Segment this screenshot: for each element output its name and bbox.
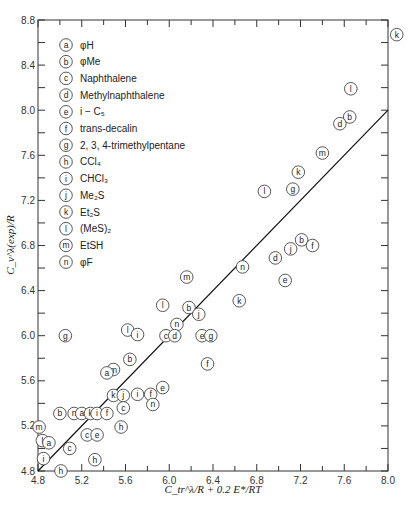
svg-text:d: d — [273, 253, 278, 263]
data-point-g: g — [205, 329, 218, 342]
x-tick-label: 7.6 — [337, 475, 351, 486]
svg-text:e: e — [95, 430, 100, 440]
svg-text:a: a — [79, 408, 84, 418]
x-tick-label: 4.8 — [31, 475, 45, 486]
data-point-d: d — [334, 117, 347, 130]
data-point-i: i — [131, 388, 144, 401]
svg-text:j: j — [289, 244, 292, 254]
legend-item-k: kEt₂S — [60, 206, 101, 219]
svg-text:i: i — [137, 330, 139, 340]
legend-label: Me₂S — [80, 190, 105, 201]
data-point-d: d — [168, 329, 181, 342]
legend-item-h: hCCl₄ — [60, 156, 101, 169]
data-point-m: m — [316, 147, 329, 160]
svg-text:l: l — [127, 325, 129, 335]
legend-label: (MeS)₂ — [80, 223, 111, 234]
data-point-g: g — [59, 329, 72, 342]
legend-label: i − C₅ — [80, 106, 105, 117]
x-tick-label: 8.0 — [381, 475, 395, 486]
legend-label: φF — [80, 257, 93, 268]
y-tick-label: 5.6 — [21, 375, 35, 386]
svg-text:h: h — [64, 157, 69, 167]
svg-text:b: b — [299, 235, 304, 245]
legend-label: Methylnaphthalene — [80, 90, 165, 101]
x-tick-label: 5.2 — [75, 475, 89, 486]
data-point-i: i — [37, 452, 50, 465]
data-point-e: e — [156, 381, 169, 394]
data-point-h: h — [89, 453, 102, 466]
svg-text:l: l — [65, 224, 67, 234]
data-point-c: c — [63, 442, 76, 455]
data-point-d: d — [269, 252, 282, 265]
legend-item-a: aφH — [60, 39, 94, 52]
data-point-n: n — [236, 261, 249, 274]
svg-text:g: g — [63, 331, 68, 341]
svg-text:l: l — [162, 300, 164, 310]
svg-text:b: b — [187, 303, 192, 313]
legend-label: φMe — [80, 56, 101, 67]
data-point-k: k — [233, 294, 246, 307]
svg-text:a: a — [105, 368, 110, 378]
svg-text:d: d — [172, 331, 177, 341]
data-point-f: f — [201, 358, 214, 371]
legend-item-j: jMe₂S — [60, 189, 105, 202]
data-point-b: b — [54, 407, 67, 420]
data-point-f: f — [306, 239, 319, 252]
data-point-n: n — [147, 398, 160, 411]
data-point-g: g — [287, 183, 300, 196]
svg-text:l: l — [350, 84, 352, 94]
y-tick-label: 4.8 — [21, 466, 35, 477]
svg-text:g: g — [208, 331, 213, 341]
y-tick-label: 8.0 — [21, 105, 35, 116]
legend-item-c: cNaphthalene — [60, 72, 137, 85]
svg-text:m: m — [36, 422, 43, 432]
data-point-j: j — [284, 243, 297, 256]
svg-text:n: n — [175, 319, 180, 329]
y-tick-label: 6.4 — [21, 285, 35, 296]
legend-item-m: mEtSH — [60, 239, 104, 252]
svg-text:j: j — [121, 390, 124, 400]
y-tick-label: 7.2 — [21, 195, 35, 206]
data-point-c: c — [117, 402, 130, 415]
data-point-l: l — [156, 299, 169, 312]
data-point-a: a — [43, 437, 56, 450]
legend-label: CHCl₃ — [80, 173, 108, 184]
x-tick-label: 5.6 — [119, 475, 133, 486]
legend-item-i: iCHCl₃ — [60, 172, 108, 185]
svg-text:h: h — [59, 466, 64, 476]
svg-text:g: g — [290, 184, 295, 194]
x-tick-label: 7.2 — [294, 475, 308, 486]
data-point-n: n — [171, 318, 184, 331]
legend-label: trans-decalin — [80, 123, 137, 134]
svg-text:n: n — [150, 399, 155, 409]
y-tick-label: 7.6 — [21, 150, 35, 161]
data-point-b: b — [124, 353, 137, 366]
svg-text:h: h — [119, 422, 124, 432]
svg-text:n: n — [240, 262, 245, 272]
data-point-j: j — [117, 389, 130, 402]
svg-text:g: g — [64, 140, 69, 150]
legend-item-l: l(MeS)₂ — [60, 222, 112, 235]
data-point-h: h — [55, 465, 68, 478]
legend: aφHbφMecNaphthalenedMethylnaphthaleneei … — [60, 39, 186, 269]
y-tick-label: 6.0 — [21, 330, 35, 341]
data-point-h: h — [115, 421, 128, 434]
data-point-j: j — [192, 308, 205, 321]
svg-text:j: j — [64, 190, 67, 200]
svg-text:n: n — [64, 257, 69, 267]
data-point-a: a — [101, 367, 114, 380]
y-tick-label: 8.8 — [21, 15, 35, 26]
svg-text:i: i — [43, 454, 45, 464]
svg-text:b: b — [347, 112, 352, 122]
y-axis-title: C_v^λ(exp)/R — [4, 215, 17, 275]
data-point-m: m — [33, 421, 46, 434]
svg-text:d: d — [64, 90, 69, 100]
legend-item-b: bφMe — [60, 55, 101, 68]
svg-text:d: d — [338, 119, 343, 129]
y-tick-label: 8.4 — [21, 60, 35, 71]
svg-text:e: e — [283, 275, 288, 285]
legend-label: 2, 3, 4-trimethylpentane — [80, 140, 185, 151]
legend-item-n: nφF — [60, 256, 93, 269]
legend-label: Et₂S — [80, 207, 100, 218]
legend-label: φH — [80, 40, 94, 51]
